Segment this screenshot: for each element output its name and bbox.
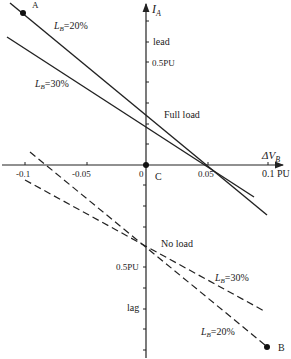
x-tick-label-0: 0 xyxy=(139,169,144,179)
x-axis-label: ΔVB xyxy=(261,149,280,164)
no-load-label: No load xyxy=(161,238,193,249)
series-label-dashed-lb-20: LB=20% xyxy=(200,326,235,339)
x-tick-label-0-1-pu: 0.1 PU xyxy=(262,168,291,179)
solid-line-lb-30 xyxy=(7,37,254,197)
solid-line-lb-20 xyxy=(10,3,267,215)
point-b-label: B xyxy=(278,342,285,353)
point-a-marker xyxy=(20,10,26,16)
series-label-dashed-lb-30: LB=30% xyxy=(214,272,249,285)
x-tick-label-neg-0-05: -0.05 xyxy=(72,169,91,179)
y-label-lag: lag xyxy=(127,302,139,313)
y-label-lower-0-5pu: 0.5PU xyxy=(116,262,139,272)
x-tick-label-0-05: 0.05 xyxy=(198,169,214,179)
series-label-solid-lb-30: LB=30% xyxy=(34,78,69,91)
y-axis-label: IA xyxy=(151,2,161,18)
point-b-marker xyxy=(264,344,270,350)
origin-label: C xyxy=(155,171,162,182)
y-label-upper-0-5pu: 0.5PU xyxy=(152,58,175,68)
series-label-solid-lb-20: LB=20% xyxy=(53,20,88,33)
y-label-lead: lead xyxy=(153,36,170,47)
point-a-label: A xyxy=(32,0,39,10)
load-characteristic-diagram: IA ΔVB C -0.1 -0.05 0 0.05 0.1 PU lead 0… xyxy=(0,0,291,359)
x-tick-label-neg-0-1: -0.1 xyxy=(16,169,30,179)
origin-marker xyxy=(143,162,149,168)
full-load-label: Full load xyxy=(164,109,200,120)
